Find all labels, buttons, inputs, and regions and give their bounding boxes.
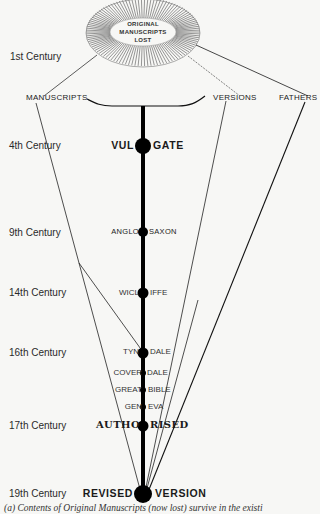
century-19th: 19th Century xyxy=(9,489,66,499)
origin-line-1: ORIGINAL xyxy=(113,20,173,28)
version-authorised-left: AUTHO xyxy=(96,420,140,430)
version-revised-right: VERSION xyxy=(155,488,206,499)
version-coverdale-right: DALE xyxy=(147,369,168,377)
origin-line-2: MANUSCRIPTS xyxy=(113,28,173,36)
version-anglo-saxon-left: ANGLO xyxy=(111,228,139,236)
source-versions: VERSIONS xyxy=(213,94,257,102)
version-geneva-right: EVA xyxy=(148,403,163,411)
version-revised-left: REVISED xyxy=(83,488,133,499)
century-17th: 17th Century xyxy=(9,421,66,431)
century-16th: 16th Century xyxy=(9,348,66,358)
origin-to-sources-lines xyxy=(44,45,308,96)
century-14th: 14th Century xyxy=(9,288,66,298)
source-fathers: FATHERS xyxy=(279,94,317,102)
origin-line-3: LOST xyxy=(113,36,173,44)
version-tyndale-left: TYN xyxy=(123,348,139,356)
version-vulgate-right: GATE xyxy=(153,140,184,151)
origin-label: ORIGINAL MANUSCRIPTS LOST xyxy=(113,20,173,44)
version-tyndale-right: DALE xyxy=(150,348,171,356)
version-geneva-left: GEN xyxy=(125,403,142,411)
version-vulgate-left: VUL xyxy=(111,140,134,151)
version-wicliffe-left: WICL xyxy=(119,289,139,297)
version-authorised-right: RISED xyxy=(150,420,189,430)
version-coverdale-left: COVER xyxy=(114,369,142,377)
century-4th: 4th Century xyxy=(9,141,61,151)
fathers-lines xyxy=(148,102,305,492)
version-great-bible-right: BIBLE xyxy=(148,386,171,394)
version-wicliffe-right: IFFE xyxy=(150,289,167,297)
century-1st: 1st Century xyxy=(10,52,61,62)
version-great-bible-left: GREAT xyxy=(115,386,142,394)
brace xyxy=(87,96,205,106)
version-anglo-saxon-right: SAXON xyxy=(149,228,177,236)
source-manuscripts: MANUSCRIPTS xyxy=(26,94,88,102)
figure-caption: (a) Contents of Original Manuscripts (no… xyxy=(4,504,263,514)
manuscripts-lines xyxy=(36,103,143,493)
century-9th: 9th Century xyxy=(9,228,61,238)
